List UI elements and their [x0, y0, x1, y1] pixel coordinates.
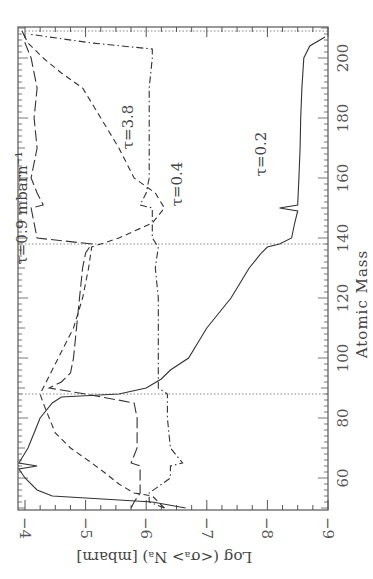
curve-label: τ=3.8 — [119, 105, 137, 150]
curve-0.2 — [19, 37, 325, 508]
curve-3.8 — [28, 34, 183, 508]
svg-text:−9: −9 — [319, 517, 337, 539]
x-tick-label: 200 — [334, 44, 352, 73]
svg-text:180: 180 — [334, 104, 352, 133]
y-tick-label: −7 — [198, 517, 216, 539]
svg-text:−5: −5 — [77, 517, 95, 539]
svg-text:160: 160 — [334, 164, 352, 193]
curve-0.9mbarn — [22, 31, 140, 508]
y-tick-label: −8 — [258, 517, 276, 539]
x-tick-label: 60 — [334, 468, 352, 487]
x-tick-label: 160 — [334, 164, 352, 193]
svg-text:200: 200 — [334, 44, 352, 73]
svg-text:140: 140 — [334, 224, 352, 253]
svg-text:Log (<σₐ> Nₐ) [mbarn]: Log (<σₐ> Nₐ) [mbarn] — [76, 548, 252, 566]
x-axis-title: Atomic Mass — [353, 250, 371, 360]
svg-text:120: 120 — [334, 284, 352, 313]
curve-label: τ=0.9 mbarn⁻¹ — [13, 151, 31, 264]
svg-text:τ=0.9 mbarn⁻¹: τ=0.9 mbarn⁻¹ — [13, 151, 31, 264]
plot-border — [18, 27, 328, 510]
x-tick-label: 80 — [334, 408, 352, 427]
tick-labels: −4−5−6−7−8−96080100120140160180200 — [16, 44, 352, 539]
svg-text:−8: −8 — [258, 517, 276, 539]
x-tick-label: 120 — [334, 284, 352, 313]
svg-text:−7: −7 — [198, 517, 216, 539]
x-tick-label: 180 — [334, 104, 352, 133]
svg-text:τ=0.2: τ=0.2 — [252, 132, 270, 177]
axis-ticks — [18, 27, 328, 510]
x-tick-label: 140 — [334, 224, 352, 253]
chart-figure: −4−5−6−7−8−96080100120140160180200 Log (… — [0, 0, 373, 579]
y-tick-label: −6 — [137, 517, 155, 539]
svg-text:Atomic Mass: Atomic Mass — [353, 250, 371, 360]
y-tick-label: −9 — [319, 517, 337, 539]
curve-0.4 — [22, 31, 164, 508]
curve-labels: τ=0.9 mbarn⁻¹τ=3.8τ=0.4τ=0.2 — [13, 105, 270, 265]
svg-text:80: 80 — [334, 408, 352, 427]
plot-frame — [18, 27, 328, 510]
svg-text:−6: −6 — [137, 517, 155, 539]
y-axis-title: Log (<σₐ> Nₐ) [mbarn] — [76, 548, 252, 566]
y-tick-label: −5 — [77, 517, 95, 539]
x-tick-label: 100 — [334, 344, 352, 373]
svg-text:τ=0.4: τ=0.4 — [168, 162, 186, 207]
svg-text:−4: −4 — [16, 517, 34, 539]
curve-label: τ=0.4 — [168, 162, 186, 207]
svg-text:100: 100 — [334, 344, 352, 373]
curves — [19, 31, 325, 508]
svg-text:60: 60 — [334, 468, 352, 487]
svg-text:τ=3.8: τ=3.8 — [119, 105, 137, 150]
curve-label: τ=0.2 — [252, 132, 270, 177]
y-tick-label: −4 — [16, 517, 34, 539]
reference-lines — [18, 31, 328, 394]
